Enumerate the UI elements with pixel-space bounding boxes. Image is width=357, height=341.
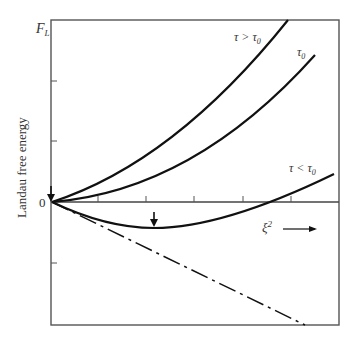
- tau0-label: τ0: [297, 45, 305, 61]
- fl-label: FL: [35, 21, 50, 38]
- curve-tau-greater: [52, 20, 288, 202]
- arrow-origin-icon: [47, 186, 55, 202]
- arrow-minimum-icon: [150, 212, 158, 227]
- tau-less-label: τ < τ0: [289, 161, 316, 177]
- zero-label: 0: [39, 195, 46, 210]
- landau-free-energy-chart: FL 0 Landau free energy ξ2 τ > τ0 τ0 τ <…: [0, 0, 357, 341]
- x-ticks: [98, 196, 291, 202]
- xi-label: ξ2: [262, 219, 273, 235]
- tau-greater-label: τ > τ0: [234, 30, 261, 46]
- y-ticks: [51, 81, 57, 263]
- arrow-xi-icon: [283, 226, 317, 232]
- y-axis-label: Landau free energy: [14, 117, 29, 218]
- curve-tau-less: [52, 174, 334, 228]
